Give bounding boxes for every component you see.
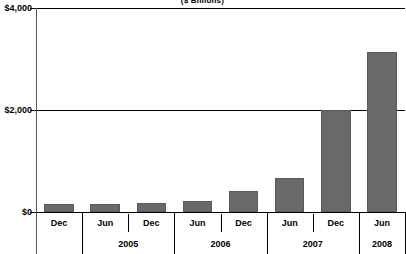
x-axis-month-label: Jun (359, 212, 405, 234)
x-axis-month-label: Jun (267, 212, 313, 234)
bar-jun-2007 (275, 178, 305, 212)
x-axis: DecJunDecJunDecJunDecJun 200520062007200… (36, 212, 405, 254)
bars-layer (36, 8, 405, 212)
x-axis-year-label: 2008 (359, 234, 405, 254)
bar-dec-2005 (137, 203, 167, 212)
plot-area: $4,000 $2,000 $0 (36, 8, 405, 212)
x-axis-month-separator (313, 214, 314, 232)
x-axis-month-label: Dec (128, 212, 174, 234)
x-axis-year-label: 2005 (82, 234, 174, 254)
bar-jun-2006 (183, 201, 213, 212)
x-axis-year-separator (82, 212, 83, 254)
y-axis-label-2000: $2,000 (4, 105, 32, 115)
x-axis-year-label: 2007 (267, 234, 359, 254)
y-axis-label-0: $0 (22, 207, 32, 217)
x-axis-year-separator (174, 212, 175, 254)
chart-subtitle: ($ Billions) (0, 0, 405, 5)
y-axis-label-4000: $4,000 (4, 3, 32, 13)
x-axis-month-separator (128, 214, 129, 232)
x-axis-month-label: Dec (36, 212, 82, 234)
bar-dec-2004 (44, 204, 74, 212)
bar-jun-2005 (90, 204, 120, 212)
x-axis-year-label: 2006 (174, 234, 266, 254)
x-axis-month-label: Jun (174, 212, 220, 234)
x-axis-year-separator (267, 212, 268, 254)
x-axis-month-label: Jun (82, 212, 128, 234)
x-axis-year-separator (359, 212, 360, 254)
x-axis-month-label: Dec (313, 212, 359, 234)
x-axis-month-separator (221, 214, 222, 232)
bar-jun-2008 (367, 52, 397, 212)
x-axis-month-label: Dec (221, 212, 267, 234)
bar-dec-2007 (321, 110, 351, 212)
x-axis-year-row: 2005200620072008 (36, 234, 405, 254)
bar-dec-2006 (229, 191, 259, 212)
